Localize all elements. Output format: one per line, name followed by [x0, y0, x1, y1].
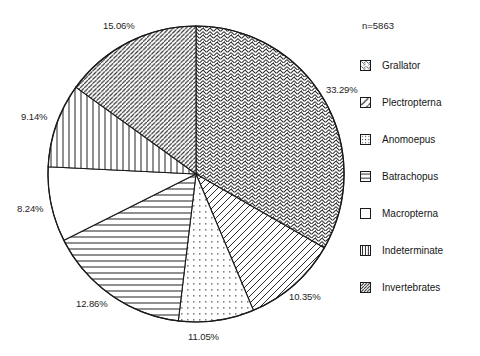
legend-item-macropterna[interactable]: Macropterna: [360, 207, 480, 220]
pie-label-invertebrates: 15.06%: [103, 20, 135, 31]
horizontal-swatch-icon: [360, 171, 371, 182]
legend-label-macropterna: Macropterna: [382, 208, 438, 219]
pie-label-indeterminate: 9.14%: [21, 111, 47, 122]
legend-label-grallator: Grallator: [382, 60, 420, 71]
legend-label-anomoepus: Anomoepus: [382, 134, 435, 145]
legend-item-plectropterna[interactable]: Plectropterna: [360, 96, 480, 109]
crosshatch-swatch-icon: [360, 60, 371, 71]
pie-label-plectropterna: 10.35%: [289, 291, 321, 302]
legend-item-batrachopus[interactable]: Batrachopus: [360, 170, 480, 183]
pie-slices: [48, 26, 344, 322]
legend-label-batrachopus: Batrachopus: [382, 171, 438, 182]
pie-label-batrachopus: 12.86%: [76, 298, 108, 309]
dots-swatch-icon: [360, 134, 371, 145]
legend-item-indeterminate[interactable]: Indeterminate: [360, 244, 480, 257]
legend-item-grallator[interactable]: Grallator: [360, 59, 480, 72]
vertical-swatch-icon: [360, 245, 371, 256]
pie-chart-figure: 33.29% 10.35% 11.05% 12.86% 8.24% 9.14% …: [0, 0, 480, 356]
dense-diagonal-swatch-icon: [360, 282, 371, 293]
pie-label-anomoepus: 11.05%: [188, 331, 219, 342]
sample-size-annotation: n=5863: [362, 20, 480, 31]
chart-legend: n=5863 Grallator Plectropterna Anomoepus…: [360, 20, 480, 318]
legend-label-plectropterna: Plectropterna: [382, 97, 441, 108]
pie-label-macropterna: 8.24%: [17, 203, 43, 214]
blank-swatch-icon: [360, 208, 371, 219]
legend-item-anomoepus[interactable]: Anomoepus: [360, 133, 480, 146]
diagonal-swatch-icon: [360, 97, 371, 108]
legend-label-indeterminate: Indeterminate: [382, 245, 443, 256]
legend-item-invertebrates[interactable]: Invertebrates: [360, 281, 480, 294]
pie-label-grallator: 33.29%: [326, 84, 358, 95]
legend-label-invertebrates: Invertebrates: [382, 282, 440, 293]
